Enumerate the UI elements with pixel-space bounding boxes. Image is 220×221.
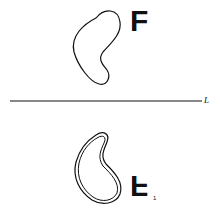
reflection-diagram (0, 0, 220, 221)
reflected-shape (75, 133, 121, 204)
reflected-figure-label: F (130, 171, 148, 201)
reflected-figure-subscript: 1 (153, 195, 156, 201)
original-shape (73, 11, 120, 84)
line-label: L (204, 96, 209, 105)
original-figure-label: F (130, 6, 148, 36)
